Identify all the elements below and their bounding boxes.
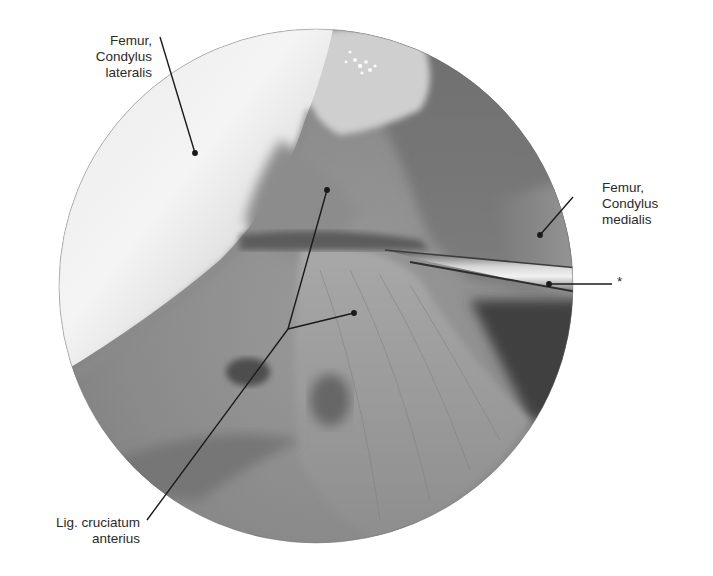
- label-line: *: [617, 274, 637, 290]
- label-lig-cruciatum-anterius: Lig. cruciatum anterius: [10, 515, 140, 547]
- pointer-dot-acl-lower: [352, 311, 356, 315]
- arthroscopy-figure: Femur, Condylus lateralis Femur, Condylu…: [0, 0, 713, 576]
- label-line: medialis: [602, 212, 702, 228]
- label-condylus-medialis: Femur, Condylus medialis: [602, 180, 702, 228]
- label-line: anterius: [10, 531, 140, 547]
- pointer-dot-medial: [538, 233, 542, 237]
- label-line: Femur,: [602, 180, 702, 196]
- label-line: Condylus: [602, 196, 702, 212]
- label-line: Condylus: [60, 49, 152, 65]
- label-line: lateralis: [60, 65, 152, 81]
- pointer-dot-lateral: [193, 151, 197, 155]
- label-line: Lig. cruciatum: [10, 515, 140, 531]
- label-line: Femur,: [60, 33, 152, 49]
- pointer-dot-acl-upper: [325, 188, 329, 192]
- pointer-dot-instrument: [547, 282, 551, 286]
- label-condylus-lateralis: Femur, Condylus lateralis: [60, 33, 152, 81]
- scope-image: [50, 20, 600, 560]
- label-instrument-asterisk: *: [617, 274, 637, 290]
- arthroscopic-view: [0, 0, 713, 576]
